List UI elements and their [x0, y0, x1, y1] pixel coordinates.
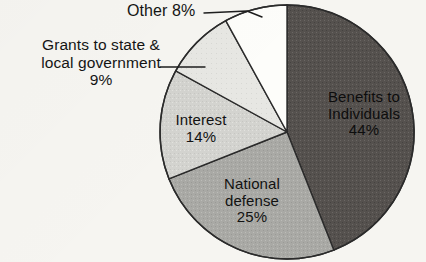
callout-grants-line2: local government	[8, 54, 194, 72]
pie-chart-figure: Other 8% Grants to state & local governm…	[0, 0, 426, 262]
slice-label-interest-line1: Interest	[157, 112, 245, 129]
slice-label-national-defense: National defense 25%	[203, 176, 301, 226]
slice-label-benefits: Benefits to Individuals 44%	[312, 89, 416, 139]
callout-grants-line1: Grants to state &	[8, 36, 194, 54]
callout-other: Other 8%	[127, 2, 195, 20]
callout-other-text: Other 8%	[127, 2, 195, 19]
slice-label-interest: Interest 14%	[157, 112, 245, 145]
callout-grants: Grants to state & local government 9%	[8, 36, 194, 89]
callout-grants-value: 9%	[8, 71, 194, 89]
slice-label-benefits-line1: Benefits to	[312, 89, 416, 106]
slice-label-benefits-value: 44%	[312, 122, 416, 139]
slice-label-interest-value: 14%	[157, 129, 245, 146]
slice-label-benefits-line2: Individuals	[312, 106, 416, 123]
slice-label-defense-line2: defense	[203, 193, 301, 210]
slice-label-defense-line1: National	[203, 176, 301, 193]
slice-label-defense-value: 25%	[203, 209, 301, 226]
